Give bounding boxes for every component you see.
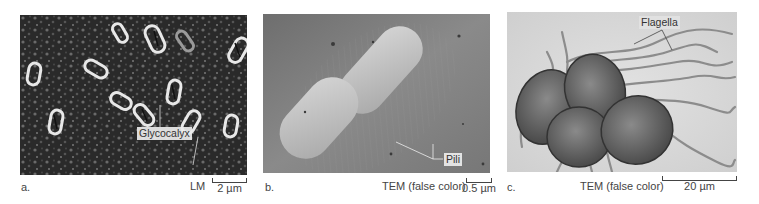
panel-a-technique: LM	[190, 180, 205, 192]
panel-c-letter: c.	[507, 181, 516, 193]
flagella-callout: Flagella	[639, 16, 680, 29]
glycocalyx-micrograph-image	[20, 15, 247, 175]
panel-b-letter: b.	[265, 181, 274, 193]
pili-micrograph-image	[263, 14, 490, 173]
scale-bar-label: 20 µm	[662, 180, 737, 192]
micrograph-panel-b: Pili	[263, 14, 490, 173]
panel-b-technique: TEM (false color)	[382, 180, 466, 192]
flagella-micrograph-image	[507, 12, 737, 172]
micrograph-panel-a: Glycocalyx	[20, 15, 247, 175]
glycocalyx-callout: Glycocalyx	[137, 127, 192, 140]
pili-callout: Pili	[444, 153, 462, 166]
scale-bar-label: 2 µm	[212, 182, 247, 194]
micrograph-panel-c: Flagella	[507, 12, 737, 172]
panel-a-letter: a.	[21, 181, 30, 193]
panel-c-technique: TEM (false color)	[580, 180, 664, 192]
scale-bar-label: 0.5 µm	[458, 182, 500, 194]
